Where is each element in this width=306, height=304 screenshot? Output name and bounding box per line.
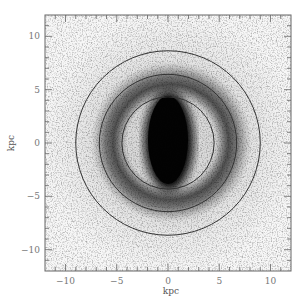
x-tick-label: 0: [165, 276, 171, 286]
density-map: [45, 15, 291, 271]
y-tick-label: 10: [29, 31, 41, 41]
y-tick-label: 0: [34, 138, 40, 148]
x-tick-label: 10: [265, 276, 277, 286]
noise-texture: [45, 15, 291, 271]
x-tick-label: −5: [110, 276, 124, 286]
galaxy-density-plot: −10−505101050−5−10 kpc kpc: [0, 0, 306, 304]
y-axis-label: kpc: [6, 135, 16, 151]
y-tick-label: −5: [27, 191, 41, 201]
x-axis-label: kpc: [163, 286, 179, 296]
y-tick-label: −10: [21, 245, 40, 255]
x-tick-label: −10: [56, 276, 75, 286]
x-tick-label: 5: [216, 276, 222, 286]
y-tick-label: 5: [34, 85, 40, 95]
